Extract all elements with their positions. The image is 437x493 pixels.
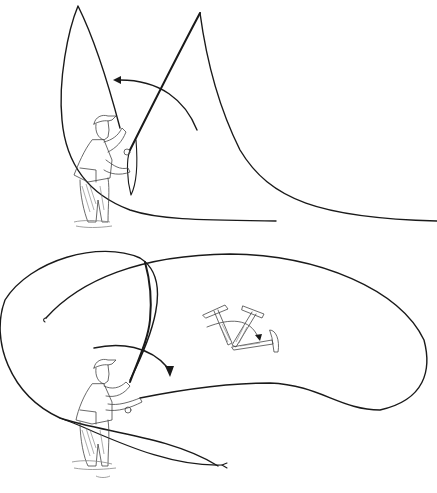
- rod-forward: [130, 262, 151, 382]
- rod-motion-arrow: [120, 80, 197, 130]
- arrow-head-icon: [165, 366, 174, 377]
- line-slack-loop: [127, 140, 136, 195]
- arrow-head-icon: [113, 76, 121, 84]
- fly-casting-illustration: [0, 0, 437, 493]
- hook-icon-bottom: [222, 463, 227, 468]
- angler-back-cast: [74, 115, 130, 227]
- line-loop-outer: [46, 254, 427, 410]
- illustration-svg: [0, 0, 437, 493]
- hammer-analogy-inset: [203, 305, 279, 352]
- forward-cast-panel: [0, 251, 427, 477]
- line-loop-left: [61, 6, 276, 221]
- back-cast-panel: [61, 6, 437, 228]
- line-peak-right: [200, 13, 437, 221]
